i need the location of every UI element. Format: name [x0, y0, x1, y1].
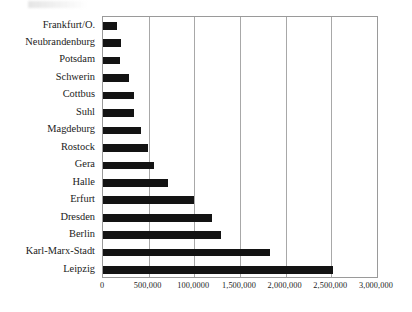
bar-row — [103, 52, 377, 69]
category-label: Berlin — [0, 225, 99, 242]
bar-row — [103, 174, 377, 191]
category-label: Karl-Marx-Stadt — [0, 243, 99, 260]
bar — [103, 214, 212, 222]
bar — [103, 196, 194, 204]
bar — [103, 179, 168, 187]
bar — [103, 39, 121, 47]
bar — [103, 162, 154, 170]
bar-row — [103, 87, 377, 104]
bar — [103, 231, 221, 239]
plot-area — [102, 16, 378, 278]
value-axis-tick-labels: 0500,000100,00001,500,0002,000,0002,500,… — [0, 281, 412, 297]
bar — [103, 249, 270, 257]
bar-row — [103, 69, 377, 86]
category-label: Potsdam — [0, 51, 99, 68]
category-label: Dresden — [0, 208, 99, 225]
bar — [103, 144, 148, 152]
category-axis-labels: Frankfurt/O.NeubrandenburgPotsdamSchweri… — [0, 16, 99, 278]
tick-label: 2,000,000 — [268, 281, 302, 290]
bar — [103, 266, 333, 274]
bar-series — [103, 17, 377, 277]
bar — [103, 127, 141, 135]
category-label: Erfurt — [0, 191, 99, 208]
tick-label: 3,000,000 — [359, 281, 393, 290]
bar-row — [103, 157, 377, 174]
category-label: Leipzig — [0, 260, 99, 277]
bar — [103, 109, 134, 117]
bar-row — [103, 34, 377, 51]
category-label: Halle — [0, 173, 99, 190]
bar-row — [103, 192, 377, 209]
bar-row — [103, 17, 377, 34]
bar-row — [103, 261, 377, 278]
category-label: Neubrandenburg — [0, 33, 99, 50]
bar-row — [103, 122, 377, 139]
bar-row — [103, 104, 377, 121]
category-label: Frankfurt/O. — [0, 16, 99, 33]
tick-label: 0 — [100, 281, 104, 290]
bar — [103, 22, 117, 30]
bar-chart: Frankfurt/O.NeubrandenburgPotsdamSchweri… — [0, 0, 412, 312]
tick-label: 1,500,000 — [222, 281, 256, 290]
bar — [103, 57, 120, 65]
bar — [103, 92, 134, 100]
category-label: Suhl — [0, 103, 99, 120]
bar — [103, 74, 129, 82]
bar-row — [103, 139, 377, 156]
tick-label: 500,000 — [134, 281, 162, 290]
category-label: Rostock — [0, 138, 99, 155]
tick-label: 2,500,000 — [313, 281, 347, 290]
category-label: Gera — [0, 156, 99, 173]
category-label: Magdeburg — [0, 121, 99, 138]
tick-label: 100,0000 — [177, 281, 209, 290]
category-label: Schwerin — [0, 68, 99, 85]
bar-row — [103, 244, 377, 261]
bar-row — [103, 209, 377, 226]
bar-row — [103, 226, 377, 243]
category-label: Cottbus — [0, 86, 99, 103]
